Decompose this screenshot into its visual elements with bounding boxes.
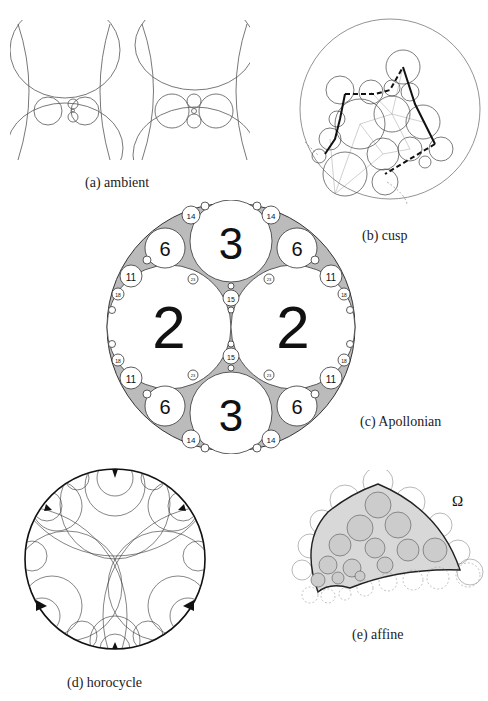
caption-cusp: (b) cusp — [362, 228, 408, 244]
label-6: 6 — [291, 238, 302, 260]
caption-horocycle: (d) horocycle — [67, 675, 142, 691]
label-11: 11 — [126, 272, 137, 283]
label-15: 15 — [227, 296, 235, 303]
panel-apollonian: 2 2 3 3 6 6 6 6 11 11 11 11 14 14 14 14 … — [105, 200, 357, 454]
caption-apollonian: (c) Apollonian — [360, 414, 441, 430]
label-14: 14 — [267, 436, 276, 445]
label-6: 6 — [159, 396, 170, 418]
apollonian-gasket-figure: 2 2 3 3 6 6 6 6 11 11 11 11 14 14 14 14 … — [105, 200, 357, 454]
panel-horocycle — [22, 466, 208, 652]
ambient-circle-packing-figure — [10, 20, 250, 160]
label-18: 18 — [341, 292, 347, 298]
label-2-left: 2 — [152, 294, 185, 361]
label-3-bottom: 3 — [219, 391, 243, 440]
label-14: 14 — [267, 212, 276, 221]
label-18: 18 — [115, 358, 121, 364]
horocycle-figure — [22, 466, 208, 652]
label-6: 6 — [159, 238, 170, 260]
panel-cusp — [295, 14, 485, 204]
label-23: 23 — [191, 277, 196, 282]
label-11: 11 — [326, 272, 337, 283]
label-18: 18 — [115, 292, 121, 298]
label-18: 18 — [341, 358, 347, 364]
caption-affine: (e) affine — [352, 627, 403, 643]
affine-figure: Ω — [290, 470, 485, 605]
label-23: 23 — [267, 277, 272, 282]
label-2-right: 2 — [276, 294, 309, 361]
panel-affine: Ω — [290, 470, 485, 605]
label-11: 11 — [326, 374, 337, 385]
label-23: 23 — [191, 373, 196, 378]
label-6: 6 — [291, 396, 302, 418]
label-14: 14 — [187, 436, 196, 445]
caption-ambient: (a) ambient — [85, 175, 149, 191]
panel-ambient — [10, 20, 250, 160]
label-23: 23 — [267, 373, 272, 378]
label-3-top: 3 — [219, 219, 243, 268]
omega-symbol: Ω — [452, 493, 463, 509]
label-14: 14 — [187, 212, 196, 221]
cusp-circle-packing-figure — [295, 14, 485, 204]
label-15: 15 — [227, 354, 235, 361]
label-11: 11 — [126, 374, 137, 385]
